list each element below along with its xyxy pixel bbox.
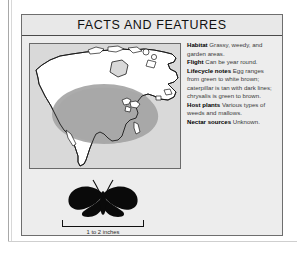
fact-item-host-plants: Host plants Various types of weeds and m… (187, 101, 265, 117)
fact-term-nectar-sources: Nectar sources (187, 118, 231, 125)
range-map-graphic (30, 44, 180, 168)
fact-term-lifecycle-notes: Lifecycle notes (187, 67, 231, 74)
scale-label: 1 to 2 inches (62, 228, 144, 236)
fact-value-nectar-sources: Unknown. (233, 118, 260, 125)
panel-title-bar: FACTS AND FEATURES (22, 15, 282, 36)
range-map (29, 43, 181, 169)
scale-rule (62, 226, 144, 227)
fact-item-flight: Flight Can be year round. (187, 58, 257, 65)
page-bottom-rule (8, 241, 297, 242)
panel-content: Habitat Grassy, weedy, and garden areas.… (22, 36, 282, 235)
facts-and-features-panel: FACTS AND FEATURES (21, 14, 283, 236)
fact-item-habitat: Habitat Grassy, weedy, and garden areas. (187, 41, 262, 57)
fact-term-flight: Flight (187, 58, 204, 65)
scale-bar (62, 220, 144, 227)
fact-item-nectar-sources: Nectar sources Unknown. (187, 118, 260, 125)
fact-term-habitat: Habitat (187, 41, 208, 48)
page-margin-rule-secondary (11, 0, 12, 241)
fact-item-lifecycle-notes: Lifecycle notes Egg ranges from green to… (187, 67, 272, 100)
fact-term-host-plants: Host plants (187, 101, 220, 108)
page-title: FACTS AND FEATURES (77, 19, 226, 32)
facts-list: Habitat Grassy, weedy, and garden areas.… (187, 41, 277, 126)
butterfly-silhouette-graphic (66, 179, 140, 219)
butterfly-icon (66, 179, 140, 219)
specimen-size-figure: 1 to 2 inches (60, 179, 150, 239)
page-margin-rule (8, 0, 9, 241)
fact-value-flight: Can be year round. (205, 58, 257, 65)
